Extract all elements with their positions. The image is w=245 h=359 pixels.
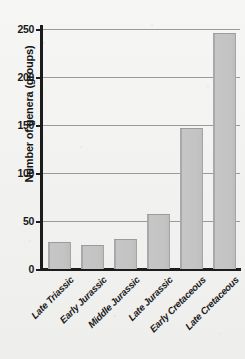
y-tick-label: 250	[17, 24, 34, 35]
y-tick-mark	[36, 221, 42, 223]
y-tick-label: 50	[23, 216, 34, 227]
bar	[81, 245, 104, 269]
y-tick-mark	[36, 29, 42, 31]
bar	[147, 214, 170, 269]
gridline	[42, 221, 240, 222]
gridline	[42, 29, 240, 30]
y-tick-mark	[36, 77, 42, 79]
bar	[48, 242, 71, 269]
y-tick-mark	[36, 125, 42, 127]
plot-area	[42, 29, 240, 269]
gridline	[42, 125, 240, 126]
y-tick-mark	[36, 173, 42, 175]
bar	[180, 128, 203, 269]
y-tick-mark	[36, 269, 42, 271]
bar	[213, 33, 236, 269]
gridline	[42, 173, 240, 174]
gridline	[42, 77, 240, 78]
y-axis-title: Number of genera (groups)	[23, 38, 35, 190]
y-axis-line	[40, 25, 43, 271]
chart-figure: 050100150200250 Number of genera (groups…	[0, 0, 245, 359]
bar	[114, 239, 137, 269]
y-tick-label: 0	[28, 264, 34, 275]
